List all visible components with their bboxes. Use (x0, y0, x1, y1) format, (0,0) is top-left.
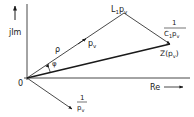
one-over-p-v-numerator: 1 (80, 94, 84, 102)
p-v-label: pv (88, 39, 97, 49)
phasor-diagram: jIm Re 0 ρ pv L1pv 1 C1pv Z(pv) φ 1 pv (0, 0, 194, 117)
one-over-c1-p-v-denominator: C1pv (164, 30, 180, 39)
phi-label: φ (52, 60, 57, 68)
l1-p-v-label: L1pv (111, 5, 128, 15)
vector-z-p-v (27, 44, 170, 78)
one-over-p-v-denominator: pv (77, 104, 84, 113)
rho-label: ρ (55, 45, 60, 54)
real-axis-label: Re (150, 83, 160, 92)
imaginary-axis-label: jIm (8, 28, 22, 37)
z-p-v-label: Z(pv) (160, 49, 179, 59)
one-over-c1-p-v-numerator: 1 (172, 19, 176, 27)
vector-p-v-arrow-icon (78, 39, 86, 44)
vector-one-over-c1-p-v (124, 13, 170, 44)
vector-p-v (27, 13, 124, 78)
origin-label: 0 (18, 79, 23, 88)
vector-one-over-p-v (27, 78, 72, 109)
